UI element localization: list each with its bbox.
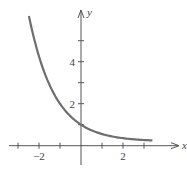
x-tick-label: −2: [33, 150, 45, 162]
x-axis-label: x: [181, 139, 187, 151]
x-tick-label: 2: [120, 150, 126, 162]
y-axis-label: y: [86, 6, 92, 18]
y-tick-label: 2: [70, 98, 76, 110]
axes: [9, 10, 179, 165]
chart: −2224 x y: [0, 0, 187, 174]
curve-line: [29, 16, 152, 140]
y-tick-label: 4: [70, 56, 76, 68]
